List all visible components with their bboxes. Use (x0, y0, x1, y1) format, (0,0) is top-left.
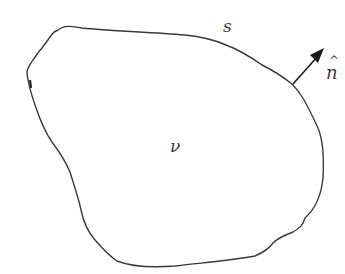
volume-label: ν (170, 138, 180, 155)
surface-label: s (223, 18, 232, 35)
normal-hat-symbol: ^ (329, 55, 339, 67)
normal-arrow-shaft (293, 56, 318, 84)
normal-arrow-head-icon (310, 48, 324, 63)
boundary-tick-mark (30, 80, 31, 88)
normal-label: ^ n (326, 64, 338, 82)
diagram-canvas: s ^ n ν (0, 0, 345, 274)
